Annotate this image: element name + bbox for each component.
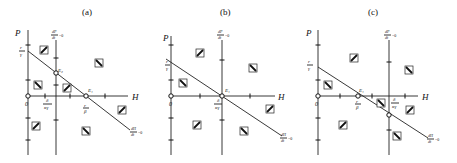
p-intercept-num: r bbox=[20, 45, 22, 50]
h-nullcline-num: dH bbox=[131, 126, 137, 131]
p-axis-label: P bbox=[162, 33, 169, 43]
flow-indicators bbox=[316, 45, 415, 140]
vline-den: κγ bbox=[392, 104, 397, 109]
p-nullcline-den: dt bbox=[218, 35, 222, 40]
panel-a: (a) P H dP dt =0 dH dt =0 r γ 0 δ κγ r β… bbox=[14, 7, 142, 155]
origin-label: 0 bbox=[315, 101, 318, 107]
p-nullcline-num: dP bbox=[218, 29, 223, 34]
equilibrium-label: E₁ bbox=[87, 88, 93, 93]
equilibrium-point bbox=[356, 94, 360, 98]
vline-den: κγ bbox=[44, 105, 49, 110]
h-nullcline bbox=[318, 67, 428, 138]
equilibrium-point bbox=[84, 94, 88, 98]
h-nullcline-eq: =0 bbox=[435, 137, 439, 142]
p-intercept-den: γ bbox=[20, 52, 23, 57]
h-nullcline-den: dt bbox=[131, 132, 135, 137]
vline-den: κγ bbox=[215, 105, 220, 110]
phase-plane-diagrams: (a) P H dP dt =0 dH dt =0 r γ 0 δ κγ r β… bbox=[0, 0, 457, 163]
h-intercept-num: r bbox=[356, 99, 358, 104]
p-intercept-den: γ bbox=[166, 66, 169, 71]
equilibrium-point bbox=[387, 113, 391, 117]
panel-b: (b) P H dP dt =0 dH dt =0 r γ 0 δ κγ E₁ bbox=[162, 7, 292, 155]
h-axis-label: H bbox=[277, 92, 285, 102]
panel-label: (a) bbox=[82, 7, 92, 17]
h-nullcline-den: dt bbox=[281, 138, 285, 143]
origin-point bbox=[169, 94, 173, 98]
h-nullcline-eq: =0 bbox=[138, 130, 142, 135]
p-nullcline-eq: =0 bbox=[392, 33, 396, 38]
origin-label: 0 bbox=[169, 101, 172, 107]
equilibrium-point bbox=[54, 71, 58, 75]
p-nullcline-num: dP bbox=[52, 29, 57, 34]
vline-num: δ bbox=[46, 98, 49, 103]
p-intercept-num: r bbox=[166, 59, 168, 64]
origin-label: 0 bbox=[25, 101, 28, 107]
vline-num: δ bbox=[393, 97, 396, 102]
equilibrium-label: E₁ bbox=[224, 88, 230, 93]
vline-num: δ bbox=[217, 98, 220, 103]
h-nullcline-num: dH bbox=[428, 133, 434, 138]
p-intercept-num: r bbox=[308, 59, 310, 64]
h-nullcline-eq: =0 bbox=[288, 136, 292, 141]
p-nullcline-eq: =0 bbox=[59, 33, 63, 38]
p-intercept-den: γ bbox=[308, 66, 311, 71]
h-axis-label: H bbox=[131, 92, 139, 102]
p-axis-label: P bbox=[305, 28, 312, 38]
h-intercept-den: β bbox=[83, 109, 87, 114]
h-nullcline-den: dt bbox=[428, 139, 432, 144]
origin-point bbox=[316, 94, 320, 98]
p-nullcline-den: dt bbox=[52, 35, 56, 40]
p-nullcline-den: dt bbox=[385, 35, 389, 40]
h-nullcline-num: dH bbox=[281, 132, 287, 137]
p-nullcline-eq: =0 bbox=[225, 33, 229, 38]
h-intercept-den: β bbox=[355, 105, 359, 110]
flow-indicators bbox=[169, 45, 275, 140]
panel-c: (c) P H dP dt =0 dH dt =0 r γ 0 r β δ κγ… bbox=[305, 7, 439, 155]
equilibrium-point bbox=[220, 94, 224, 98]
h-intercept-num: r bbox=[84, 103, 86, 108]
p-axis-label: P bbox=[14, 28, 21, 38]
h-axis-label: H bbox=[421, 92, 429, 102]
panel-label: (b) bbox=[220, 7, 231, 17]
h-nullcline bbox=[28, 51, 130, 130]
p-nullcline-num: dP bbox=[385, 29, 390, 34]
flow-indicators bbox=[26, 45, 127, 140]
equilibrium-label: E₁ bbox=[358, 88, 364, 93]
origin-point bbox=[26, 94, 30, 98]
panel-label: (c) bbox=[368, 7, 378, 17]
